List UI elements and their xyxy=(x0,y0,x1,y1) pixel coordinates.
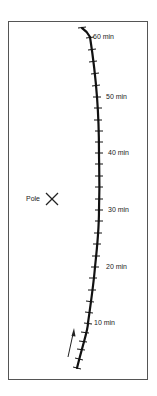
direction-arrow-icon xyxy=(68,328,76,357)
pole-x-icon xyxy=(46,193,58,205)
time-label-30: 30 min xyxy=(108,206,129,214)
track-curve xyxy=(77,28,99,368)
pole-label: Pole xyxy=(26,195,40,203)
time-label-40: 40 min xyxy=(108,149,129,157)
time-label-50: 50 min xyxy=(106,93,127,101)
time-label-60: 60 min xyxy=(93,33,114,41)
time-label-10: 10 min xyxy=(94,319,115,327)
track-diagram xyxy=(0,0,157,396)
time-label-20: 20 min xyxy=(106,263,127,271)
